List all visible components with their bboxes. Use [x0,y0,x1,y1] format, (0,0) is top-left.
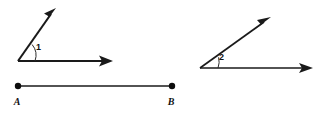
angle-1-label: 1 [36,42,41,52]
geometry-figure-canvas: 1 2 A B [0,0,320,113]
angle-2-upper-ray [200,22,264,68]
figure-svg: 1 2 A B [0,0,320,113]
segment-endpoint-a-dot [15,83,21,89]
angle-1-upper-ray-arrowhead-icon [44,8,56,24]
angle-2-group: 2 [200,17,313,73]
segment-endpoint-b-label: B [167,96,175,107]
segment-endpoint-a-label: A [13,96,21,107]
segment-ab-group: A B [13,83,176,107]
angle-1-group: 1 [18,8,113,67]
angle-2-label: 2 [219,52,224,62]
segment-endpoint-b-dot [169,83,175,89]
angle-2-upper-ray-arrowhead-icon [254,17,271,30]
